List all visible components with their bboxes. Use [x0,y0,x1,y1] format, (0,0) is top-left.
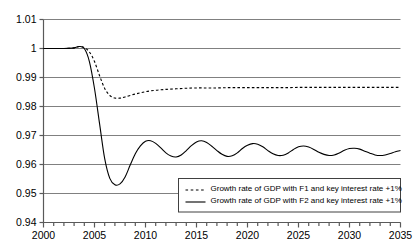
legend-label-f2: Growth rate of GDP with F2 and key inter… [211,196,402,205]
y-axis-tick-label: 0.97 [0,129,37,141]
x-axis-tick-label: 2015 [172,229,222,241]
x-axis-tick-label: 2020 [223,229,273,241]
x-axis-tick-label: 2000 [19,229,69,241]
y-axis-tick-label: 0.96 [0,158,37,170]
x-axis-tick-label: 2025 [274,229,324,241]
legend-label-f1: Growth rate of GDP with F1 and key inter… [211,184,402,193]
y-axis-tick-label: 0.95 [0,187,37,199]
y-axis-tick-label: 1 [0,42,37,54]
series-line-f1 [44,46,401,98]
y-axis-tick-label: 0.99 [0,71,37,83]
y-axis-tick-label: 0.94 [0,216,37,228]
x-axis-tick-label: 2035 [376,229,417,241]
x-axis-tick-label: 2030 [325,229,375,241]
y-axis-tick-label: 0.98 [0,100,37,112]
x-axis-tick-label: 2010 [121,229,171,241]
x-axis-tick-label: 2005 [70,229,120,241]
y-axis-tick-label: 1.01 [0,13,37,25]
